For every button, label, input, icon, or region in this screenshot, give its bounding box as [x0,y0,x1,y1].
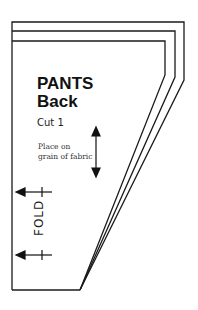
grain-line-1: Place on [38,142,92,152]
pattern-title: PANTS Back [37,75,93,111]
grain-instruction: Place on grain of fabric [38,142,92,162]
title-line-2: Back [37,93,93,111]
pattern-piece-outline [0,0,198,310]
grain-line-2: grain of fabric [38,152,92,162]
grainline-arrow-icon [92,127,100,177]
title-line-1: PANTS [37,75,93,93]
fold-label: FOLD [32,206,46,236]
cut-instruction: Cut 1 [37,117,64,128]
middle-cut-line [12,31,175,290]
